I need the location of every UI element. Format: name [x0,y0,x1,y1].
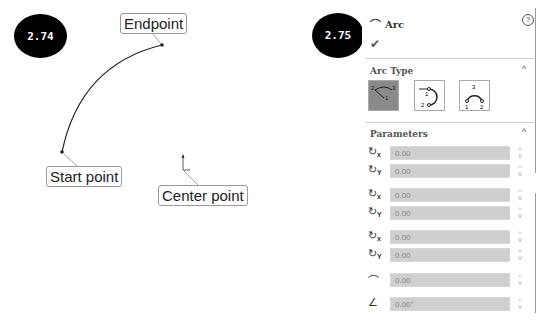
svg-text:1: 1 [465,104,469,110]
spinner[interactable]: ^v [516,274,524,286]
start-x-row: ↻x0.00^v [368,187,524,202]
center-y-icon: ↻Y [368,163,386,178]
start-y-row: ↻Y0.00^v [368,205,524,220]
arc-property-manager: ⌒ Arc ? ✔ Arc Type ^ 231 12 312 Paramete… [362,0,534,320]
parameters-title: Parameters [370,129,428,139]
start-y-icon: ↻Y [368,205,386,220]
collapse-parameters-icon[interactable]: ^ [522,127,526,137]
start-x-icon: ↻x [368,187,386,202]
spinner[interactable]: ^v [516,249,524,261]
center-point-arc-button[interactable]: 231 [368,80,399,111]
center-x-input[interactable]: 0.00 [390,146,510,160]
ok-button[interactable]: ✔ [370,37,380,51]
help-icon[interactable]: ? [522,14,534,26]
center-x-row: ↻x0.00^v [368,145,524,160]
center-y-input[interactable]: 0.00 [390,164,510,178]
spinner[interactable]: ^v [516,298,524,310]
radius-icon: ⌒ [368,272,386,287]
scrollbar-track[interactable] [535,8,536,173]
angle-icon: ∠ [368,296,386,311]
figure-number-badge: 2.75 [312,13,364,58]
spinner[interactable]: ^v [516,231,524,243]
spinner[interactable]: ^v [516,147,524,159]
divider [366,58,534,59]
center-x-icon: ↻x [368,145,386,160]
scrollbar-track[interactable] [535,193,536,313]
svg-text:3: 3 [392,85,396,91]
start-y-input[interactable]: 0.00 [390,206,510,220]
svg-text:2: 2 [421,102,425,108]
arc-type-title: Arc Type [370,66,413,76]
start-x-input[interactable]: 0.00 [390,188,510,202]
panel-header: ⌒ Arc [370,16,404,32]
spinner[interactable]: ^v [516,189,524,201]
svg-text:1: 1 [425,91,429,97]
svg-text:3: 3 [472,84,476,90]
center-point-label: Center point [158,185,248,206]
angle-row: ∠0.00°^v [368,296,524,311]
panel-title: Arc [385,19,404,30]
end-y-input[interactable]: 0.00 [390,248,510,262]
tangent-arc-button[interactable]: 12 [414,80,445,111]
start-point-label: Start point [46,166,122,187]
svg-text:2: 2 [480,104,484,110]
center-y-row: ↻Y0.00^v [368,163,524,178]
endpoint-label: Endpoint [120,13,187,34]
angle-input[interactable]: 0.00° [390,297,510,311]
end-x-icon: ↻x [368,229,386,244]
end-x-input[interactable]: 0.00 [390,230,510,244]
3-point-arc-button[interactable]: 312 [459,80,490,111]
end-x-row: ↻x0.00^v [368,229,524,244]
radius-input[interactable]: 0.00 [390,273,510,287]
svg-text:2: 2 [371,85,375,91]
collapse-arc-type-icon[interactable]: ^ [522,64,526,74]
svg-text:1: 1 [385,95,389,101]
spinner[interactable]: ^v [516,165,524,177]
radius-row: ⌒0.00^v [368,272,524,287]
end-y-row: ↻Y0.00^v [368,247,524,262]
end-y-icon: ↻Y [368,247,386,262]
arc-icon: ⌒ [370,16,381,32]
spinner[interactable]: ^v [516,207,524,219]
divider [366,122,534,123]
